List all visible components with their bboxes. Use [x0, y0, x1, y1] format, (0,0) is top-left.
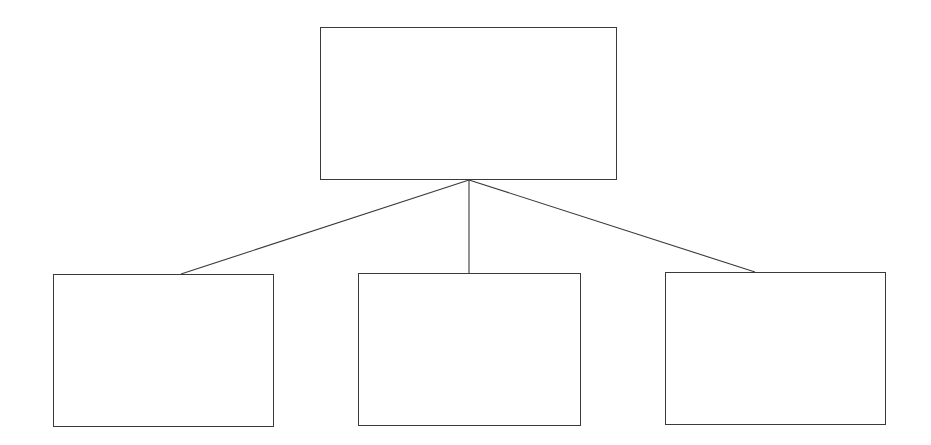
- root-node: [320, 27, 617, 180]
- connector-root-to-left: [181, 180, 469, 274]
- child-node-left: [53, 274, 274, 427]
- child-node-right: [665, 272, 886, 425]
- connector-root-to-right: [469, 180, 755, 272]
- child-node-middle: [358, 273, 581, 426]
